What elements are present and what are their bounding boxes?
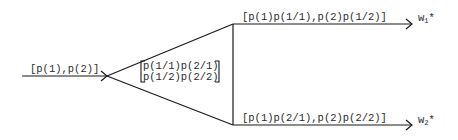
top-output-target: w1* — [418, 13, 435, 27]
top-output-label: [p(1)p(1/1),p(2)p(1/2)] — [242, 12, 387, 23]
bottom-output-target: w2* — [418, 115, 435, 129]
target-star: * — [429, 114, 435, 126]
bottom-output-label: [p(1)p(2/1),p(2)p(2/2)] — [242, 113, 387, 124]
input-label: [p(1),p(2)] — [30, 64, 99, 75]
lower-branch — [107, 76, 233, 125]
target-star: * — [429, 12, 435, 24]
channel-matrix-row-2: p(1/2)p(2/2) — [143, 72, 219, 83]
